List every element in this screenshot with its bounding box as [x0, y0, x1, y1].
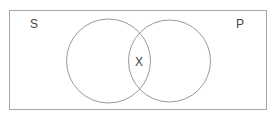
- intersection-label: X: [135, 56, 143, 68]
- set-s-label: S: [30, 18, 38, 30]
- set-p-label: P: [236, 18, 244, 30]
